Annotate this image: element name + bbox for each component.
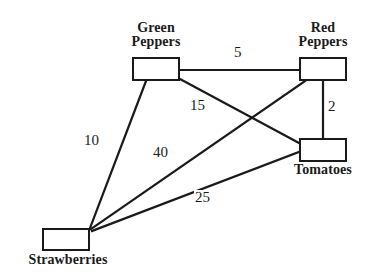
edge-weight-green-strawberries: 10 [83, 133, 100, 148]
node-box-red-peppers[interactable] [299, 57, 347, 81]
edge-weight-red-tomatoes: 2 [327, 99, 337, 114]
node-label-strawberries: Strawberries [18, 253, 118, 267]
edge-weight-green-red: 5 [233, 45, 243, 60]
edge-weight-green-tomatoes: 15 [189, 98, 206, 113]
node-box-strawberries[interactable] [42, 228, 90, 251]
edge-weight-tomatoes-strawberries: 25 [194, 190, 211, 205]
edge-green-strawberries [90, 81, 146, 228]
node-label-tomatoes: Tomatoes [279, 163, 367, 177]
node-label-green-peppers: Green Peppers [112, 21, 200, 49]
graph-diagram: Green Peppers Red Peppers Tomatoes Straw… [0, 0, 368, 276]
node-box-tomatoes[interactable] [299, 138, 347, 162]
edge-weight-red-strawberries: 40 [152, 145, 169, 160]
node-box-green-peppers[interactable] [132, 57, 180, 81]
node-label-red-peppers: Red Peppers [279, 21, 367, 49]
